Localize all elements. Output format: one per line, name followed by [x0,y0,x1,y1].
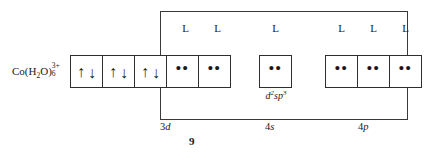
subshell-label-4s: 4s [265,122,274,133]
lone-pair-dots-icon: •• [335,60,349,75]
spin-down-arrow-icon: ↓ [88,65,96,81]
ion-charge-count-stack: 3+6 [52,62,60,77]
orbital-box: •• [198,55,231,88]
ion-ligand-count: 6 [52,70,60,78]
orbital-box: •• [325,55,358,88]
subshell-4s-letter: s [270,121,274,132]
orbital-box-group-4p: •• •• •• [325,55,422,88]
ligand-label-3: L [259,23,292,34]
lone-pair-dots-icon: •• [399,60,413,75]
orbital-box: ↑↓ [70,55,103,88]
orbital-box: ↑↓ [134,55,167,88]
orbital-box: ↑↓ [102,55,135,88]
ligand-label-4: L [325,23,358,34]
hybrid-mid: sp [274,90,283,101]
spin-up-arrow-icon: ↑ [77,64,85,80]
ligand-label-2: L [201,23,234,34]
ligand-label-5: L [357,23,390,34]
lone-pair-dots-icon: •• [367,60,381,75]
figure-number: 9 [189,136,195,147]
subshell-4p-letter: p [363,121,368,132]
lone-pair-dots-icon: •• [269,60,283,75]
electron-pair: ↑↓ [141,64,160,80]
hybridization-label: d2sp3 [253,90,299,101]
ligand-label-6: L [389,23,422,34]
orbital-box: •• [259,55,292,88]
electron-pair: ↑↓ [77,64,96,80]
lone-pair-dots-icon: •• [208,60,222,75]
orbital-box: •• [389,55,422,88]
orbital-box: •• [357,55,390,88]
complex-ion-formula: Co(H2O)3+6 [12,62,60,79]
electron-pair: ↑↓ [109,64,128,80]
spin-down-arrow-icon: ↓ [152,65,160,81]
hybrid-exponent-2: 3 [283,89,287,97]
spin-up-arrow-icon: ↑ [141,64,149,80]
orbital-box: •• [166,55,199,88]
orbital-box-group-3d: ↑↓ ↑↓ ↑↓ •• •• [70,55,231,88]
subshell-3d-letter: d [165,121,170,132]
spin-up-arrow-icon: ↑ [109,64,117,80]
ion-ligand-element-o: O [40,65,48,77]
subshell-label-4p: 4p [358,122,369,133]
orbital-box-group-4s: •• [259,55,292,88]
ion-element: Co [12,65,25,77]
subshell-label-3d: 3d [160,122,171,133]
orbital-diagram-figure: Co(H2O)3+6 L L L L L L ↑↓ ↑↓ ↑↓ •• •• [0,0,430,152]
ligand-label-1: L [169,23,202,34]
lone-pair-dots-icon: •• [176,60,190,75]
spin-down-arrow-icon: ↓ [120,65,128,81]
